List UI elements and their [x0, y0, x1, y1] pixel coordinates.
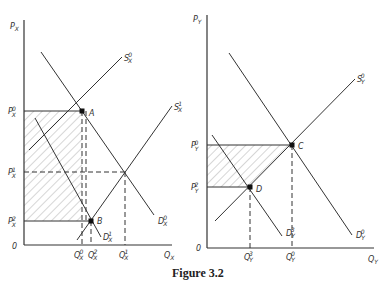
label-qx2: QX2 [88, 248, 98, 261]
label-dx1: DX1 [103, 230, 113, 243]
origin-label-right: 0 [196, 244, 201, 253]
point-b [89, 219, 94, 224]
label-point-c: C [298, 142, 304, 151]
point-a [80, 109, 85, 114]
label-point-d: D [256, 185, 262, 194]
y-axis-label-py: PY [193, 15, 203, 25]
label-qy0: QY0 [286, 250, 296, 263]
label-px0: PX0 [8, 105, 17, 118]
hatched-area-x [24, 111, 82, 221]
label-py2: PY2 [191, 181, 200, 194]
label-dy0: DY0 [356, 228, 366, 241]
label-dy3: DY3 [286, 226, 296, 239]
x-axis-label-qy: QY [368, 255, 379, 265]
x-axis-label-qx: QX [164, 251, 175, 261]
label-py0: PY0 [191, 139, 200, 152]
label-px1: PX1 [8, 166, 17, 179]
label-sy0: SY0 [357, 72, 366, 85]
label-px2: PX2 [8, 215, 17, 228]
label-dx0: DX0 [158, 214, 168, 227]
hatched-area-y [207, 145, 292, 187]
point-d [248, 185, 253, 190]
y-axis-label-px: PX [10, 22, 20, 32]
point-c [290, 143, 295, 148]
figure-caption: Figure 3.2 [172, 266, 224, 280]
figure-3-2: PX QX 0 PX0 PX1 PX2 QX0 QX2 QX1 SX0 SX1 … [0, 0, 389, 287]
label-qx0: QX0 [74, 248, 84, 261]
label-sx0: SX0 [124, 51, 133, 64]
label-point-b: B [97, 217, 103, 226]
origin-label-left: 0 [12, 242, 17, 251]
label-point-a: A [88, 109, 94, 118]
label-qy3: QY3 [244, 250, 254, 263]
label-sx1: SX1 [174, 100, 183, 113]
left-panel-market-x: PX QX 0 PX0 PX1 PX2 QX0 QX2 QX1 SX0 SX1 … [8, 20, 183, 261]
label-qx1: QX1 [119, 248, 129, 261]
right-panel-market-y: PY QY 0 PY0 PY2 QY3 QY0 SY0 DY0 DY3 C D [191, 15, 379, 265]
